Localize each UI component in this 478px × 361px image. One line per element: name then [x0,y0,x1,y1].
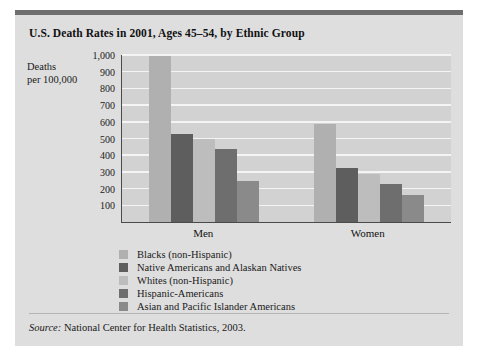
legend-item: Asian and Pacific Islander Americans [119,300,301,313]
bar [380,184,402,222]
legend-item: Blacks (non-Hispanic) [119,248,301,261]
legend-label: Whites (non-Hispanic) [137,275,233,286]
y-axis-tick-label: 300 [71,166,115,177]
legend-item: Native Americans and Alaskan Natives [119,261,301,274]
source-label: Source: [29,322,61,333]
gridline [122,121,451,123]
y-axis-tick-label: 800 [71,83,115,94]
y-axis-tick-label: 400 [71,150,115,161]
y-axis-tick-label: 200 [71,183,115,194]
legend-label: Hispanic-Americans [137,288,223,299]
y-axis-tick-label: 700 [71,100,115,111]
bar [358,174,380,222]
legend-label: Blacks (non-Hispanic) [137,249,232,260]
plot-canvas: 1002003004005006007008009001,000 [121,55,451,223]
bar [215,149,237,222]
source-note: Source: National Center for Health Stati… [29,322,246,333]
legend-swatch [119,276,128,285]
legend-item: Whites (non-Hispanic) [119,274,301,287]
plot-area: 1002003004005006007008009001,000 MenWome… [101,55,451,223]
legend-swatch [119,263,128,272]
legend-swatch [119,289,128,298]
gridline [122,88,451,90]
y-axis-tick-label: 900 [71,66,115,77]
y-axis-tick-label: 600 [71,116,115,127]
y-axis-tick-label: 100 [71,200,115,211]
legend-label: Asian and Pacific Islander Americans [137,301,295,312]
y-axis-tick-label: 1,000 [71,50,115,61]
source-text: National Center for Health Statistics, 2… [61,322,245,333]
gridline [122,54,451,56]
bar [149,56,171,222]
gridline [122,104,451,106]
bar [336,168,358,222]
chart-title: U.S. Death Rates in 2001, Ages 45–54, by… [29,27,305,39]
legend-swatch [119,250,128,259]
bar [402,195,424,222]
chart-figure-panel: U.S. Death Rates in 2001, Ages 45–54, by… [15,10,463,346]
bar [237,181,259,222]
x-axis-group-label: Women [351,227,385,239]
chart-legend: Blacks (non-Hispanic)Native Americans an… [119,248,301,313]
gridline [122,71,451,73]
y-axis-tick-label: 500 [71,133,115,144]
bar [193,139,215,223]
x-axis-group-label: Men [193,227,213,239]
source-divider [29,313,449,314]
bar [171,134,193,223]
bar [314,124,336,222]
legend-item: Hispanic-Americans [119,287,301,300]
figure-top-rule [15,10,463,15]
legend-label: Native Americans and Alaskan Natives [137,262,301,273]
legend-swatch [119,302,128,311]
